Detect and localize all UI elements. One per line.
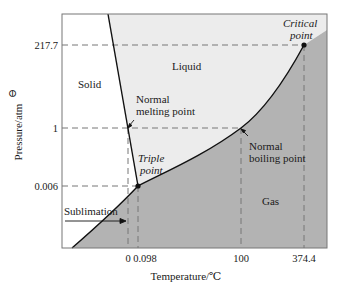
critical-label-1: Critical [283, 17, 317, 29]
triple-point-marker [135, 183, 140, 188]
boiling-label-1: Normal [249, 140, 283, 152]
y-axis-label-superscript: ⊖ [6, 89, 18, 98]
x-axis-label: Temperature/℃ [151, 270, 222, 282]
x-tick-0: 0 [125, 253, 130, 264]
sublimation-label: Sublimation [64, 205, 118, 217]
y-tick-1: 1 [53, 123, 58, 134]
solid-label: Solid [78, 78, 102, 90]
critical-point-marker [301, 42, 306, 47]
critical-label-2: point [289, 29, 314, 41]
x-tick-0098: 0.098 [133, 253, 157, 264]
phase-diagram: Solid Liquid Gas Critical point Triple p… [0, 0, 341, 293]
boiling-label-2: boiling point [249, 152, 306, 164]
y-tick-217: 217.7 [34, 40, 58, 51]
triple-label-2: point [139, 164, 164, 176]
triple-label-1: Triple [138, 152, 164, 164]
melting-label-2: melting point [136, 105, 195, 117]
gas-label: Gas [262, 195, 279, 207]
x-tick-100: 100 [233, 253, 249, 264]
liquid-label: Liquid [172, 60, 202, 72]
y-axis-label: Pressure/atm [12, 103, 24, 160]
x-tick-3744: 374.4 [292, 253, 316, 264]
y-tick-0006: 0.006 [34, 181, 58, 192]
melting-label-1: Normal [136, 93, 170, 105]
